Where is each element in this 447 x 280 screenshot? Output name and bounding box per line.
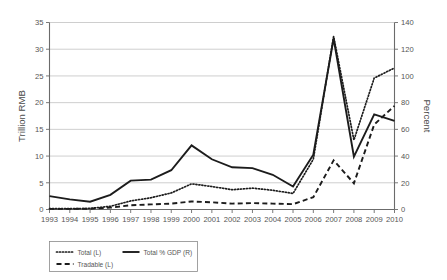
line-chart: 05101520253035 020406080100120140 199319…	[0, 0, 447, 280]
right-tick-label: 80	[401, 98, 409, 107]
y-axis-title: Trillion RMB	[16, 90, 27, 142]
right-tick-label: 40	[401, 152, 409, 161]
x-tick-label: 2009	[366, 215, 383, 224]
x-tick-label: 1996	[102, 215, 119, 224]
x-tick-label: 2007	[325, 215, 342, 224]
x-tick-label: 1998	[143, 215, 160, 224]
x-tick-label: 1994	[61, 215, 78, 224]
x-tick-label: 2000	[183, 215, 200, 224]
chart-container: 05101520253035 020406080100120140 199319…	[0, 0, 447, 280]
x-tick-label: 2002	[224, 215, 241, 224]
left-tick-label: 10	[35, 152, 43, 161]
right-tick-label: 100	[401, 72, 414, 81]
x-tick-label: 1999	[163, 215, 180, 224]
x-tick-label: 2008	[345, 215, 362, 224]
x-tick-label: 1995	[82, 215, 99, 224]
left-tick-label: 35	[35, 18, 43, 27]
x-tick-label: 2006	[305, 215, 322, 224]
x-tick-label: 2003	[244, 215, 261, 224]
x-tick-label: 1993	[41, 215, 58, 224]
right-tick-label: 20	[401, 179, 409, 188]
left-tick-label: 5	[39, 179, 43, 188]
left-tick-label: 15	[35, 125, 43, 134]
y2-axis-title: Percent	[422, 99, 433, 132]
legend-box	[50, 242, 198, 272]
left-tick-label: 25	[35, 72, 43, 81]
legend-label: Total % GDP (R)	[144, 249, 193, 257]
x-tick-label: 2005	[285, 215, 302, 224]
x-tick-label: 1997	[122, 215, 139, 224]
chart-background	[0, 0, 447, 280]
right-tick-label: 140	[401, 18, 414, 27]
left-tick-label: 30	[35, 45, 43, 54]
right-tick-label: 60	[401, 125, 409, 134]
chart-legend: Total (L)Total % GDP (R)Tradable (L)	[50, 242, 198, 272]
left-tick-label: 0	[39, 205, 43, 214]
x-tick-label: 2004	[264, 215, 281, 224]
right-tick-label: 0	[401, 205, 405, 214]
legend-label: Total (L)	[78, 249, 102, 257]
right-tick-label: 120	[401, 45, 414, 54]
x-tick-label: 2001	[203, 215, 220, 224]
x-tick-label: 2010	[386, 215, 403, 224]
legend-label: Tradable (L)	[78, 261, 114, 269]
left-tick-label: 20	[35, 98, 43, 107]
